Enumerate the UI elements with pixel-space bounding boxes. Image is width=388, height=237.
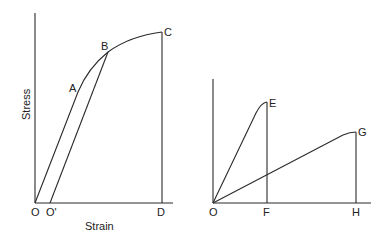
point-label-c: C <box>164 26 172 38</box>
ductile-curve <box>213 132 356 203</box>
point-label-o: O <box>209 206 218 218</box>
point-label-e: E <box>269 97 276 109</box>
point-label-b: B <box>101 40 108 52</box>
brittle-curve <box>213 102 267 203</box>
point-label-f: F <box>263 206 270 218</box>
point-label-d: D <box>157 206 165 218</box>
unloading-line <box>50 52 108 203</box>
point-label-g: G <box>358 126 367 138</box>
stress-strain-diagrams: A B C O O' D Strain Stress E G O F H <box>0 0 388 237</box>
y-axis-label: Stress <box>20 88 32 120</box>
x-axis-label: Strain <box>85 220 114 232</box>
point-label-o-prime: O' <box>46 206 57 218</box>
point-label-h: H <box>352 206 360 218</box>
point-label-o: O <box>31 206 40 218</box>
loading-curve <box>35 32 162 203</box>
point-label-a: A <box>69 82 77 94</box>
right-stress-strain-diagram: E G O F H <box>209 79 371 218</box>
left-stress-strain-diagram: A B C O O' D Strain Stress <box>20 13 173 232</box>
